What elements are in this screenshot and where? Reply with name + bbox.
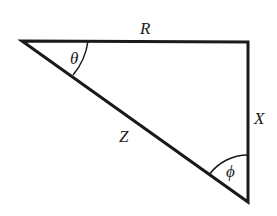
- label-phi: ϕ: [226, 163, 235, 180]
- label-z: Z: [119, 128, 128, 145]
- label-r: R: [140, 20, 150, 37]
- right-triangle: [22, 41, 248, 202]
- label-theta: θ: [70, 50, 78, 67]
- triangle-figure: [0, 0, 277, 216]
- label-x: X: [254, 110, 264, 127]
